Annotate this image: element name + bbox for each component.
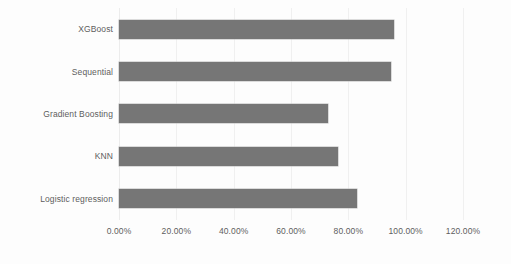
tick-label-text: 100.00% (389, 226, 423, 236)
tick-label-0: 0.00% (107, 226, 132, 236)
category-label: XGBoost (78, 8, 113, 50)
value-axis: 0.00% 20.00% 40.00% 60.00% 80.00% 100.00… (119, 226, 463, 246)
category-label-text: Gradient Boosting (43, 109, 113, 119)
bar-chart: XGBoost Sequential Gradient Boosting KNN… (0, 0, 511, 264)
bar-row (119, 178, 463, 220)
tick-label-100: 100.00% (389, 226, 423, 236)
bar-xgboost[interactable] (119, 20, 394, 39)
category-label: Logistic regression (40, 178, 113, 220)
bar-logistic-regression[interactable] (119, 189, 357, 208)
tick-label-40: 40.00% (219, 226, 248, 236)
tick-label-text: 80.00% (334, 226, 363, 236)
bar-row (119, 8, 463, 50)
tick-label-text: 40.00% (219, 226, 248, 236)
category-label: Gradient Boosting (43, 93, 113, 135)
tick-label-text: 120.00% (446, 226, 480, 236)
category-label-text: Logistic regression (40, 194, 113, 204)
tick-label-60: 60.00% (276, 226, 305, 236)
bars-layer (119, 8, 463, 220)
tick-label-80: 80.00% (334, 226, 363, 236)
tick-label-text: 60.00% (276, 226, 305, 236)
tick-label-text: 20.00% (162, 226, 191, 236)
tick-label-120: 120.00% (446, 226, 480, 236)
category-label: Sequential (72, 50, 113, 92)
category-label-text: KNN (95, 151, 113, 161)
category-label-text: Sequential (72, 67, 113, 77)
bar-row (119, 50, 463, 92)
category-label: KNN (95, 135, 113, 177)
bar-row (119, 135, 463, 177)
category-axis: XGBoost Sequential Gradient Boosting KNN… (0, 8, 113, 220)
category-label-text: XGBoost (78, 24, 113, 34)
bar-row (119, 93, 463, 135)
bar-gradient-boosting[interactable] (119, 104, 328, 123)
bar-knn[interactable] (119, 147, 338, 166)
tick-label-text: 0.00% (107, 226, 132, 236)
bar-sequential[interactable] (119, 62, 391, 81)
tick-label-20: 20.00% (162, 226, 191, 236)
